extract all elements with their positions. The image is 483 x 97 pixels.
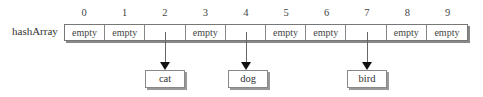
array-cell: empty — [65, 25, 105, 40]
array-cell: empty — [266, 25, 306, 40]
index-label: 2 — [145, 7, 185, 21]
entry-box-dog: dog — [228, 70, 268, 88]
pointer-line — [367, 32, 368, 64]
pointer-line — [165, 32, 166, 64]
arrowhead-icon — [241, 62, 251, 70]
arrowhead-icon — [160, 62, 170, 70]
arrowhead-icon — [362, 62, 372, 70]
entry-box-cat: cat — [145, 70, 185, 88]
array-cell: empty — [306, 25, 346, 40]
index-label: 0 — [64, 7, 104, 21]
index-label: 1 — [104, 7, 144, 21]
hash-array: empty empty empty empty empty empty empt… — [64, 24, 468, 41]
array-cell: empty — [105, 25, 145, 40]
index-label: 7 — [347, 7, 387, 21]
index-label: 9 — [428, 7, 468, 21]
index-label: 8 — [387, 7, 427, 21]
entry-box-bird: bird — [347, 70, 387, 88]
array-cell: empty — [427, 25, 467, 40]
index-label: 6 — [306, 7, 346, 21]
index-label: 4 — [226, 7, 266, 21]
array-cell: empty — [387, 25, 427, 40]
index-label: 3 — [185, 7, 225, 21]
hash-array-label: hashArray — [12, 25, 58, 37]
array-cell: empty — [186, 25, 226, 40]
index-row: 0 1 2 3 4 5 6 7 8 9 — [64, 7, 468, 21]
pointer-line — [246, 32, 247, 64]
index-label: 5 — [266, 7, 306, 21]
